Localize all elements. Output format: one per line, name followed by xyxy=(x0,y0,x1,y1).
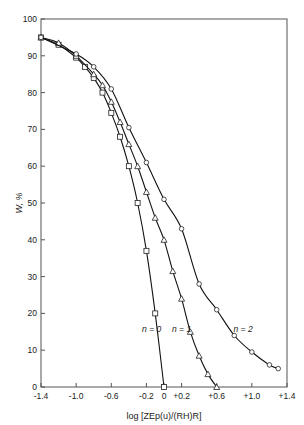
series-group: n = 0n = 1n = 2 xyxy=(38,34,281,389)
y-tick-label: 30 xyxy=(28,272,38,282)
triangle-marker xyxy=(205,371,211,377)
triangle-marker xyxy=(170,268,176,274)
series-label: n = 1 xyxy=(172,324,191,334)
series-line xyxy=(41,37,278,368)
series-label: n = 0 xyxy=(142,324,161,334)
circle-marker xyxy=(91,65,96,70)
y-tick-label: 100 xyxy=(23,14,37,24)
triangle-marker xyxy=(126,141,132,147)
square-marker xyxy=(144,248,149,253)
circle-marker xyxy=(127,125,132,130)
x-tick-label: -1.4 xyxy=(34,391,49,401)
y-tick-label: 60 xyxy=(28,161,38,171)
y-tick-label: 10 xyxy=(28,345,38,355)
square-marker xyxy=(100,90,105,95)
x-tick-label: +0.2 xyxy=(173,391,190,401)
circle-marker xyxy=(162,197,167,202)
circle-marker xyxy=(197,282,202,287)
x-axis-label: log [ZEp(u)/(RH)R] xyxy=(126,411,201,421)
y-tick-label: 20 xyxy=(28,308,38,318)
triangle-marker xyxy=(196,353,202,359)
triangle-marker xyxy=(161,237,167,243)
circle-marker xyxy=(276,366,281,371)
circle-marker xyxy=(267,363,272,368)
x-tick-label: +1.0 xyxy=(243,391,260,401)
square-marker xyxy=(126,164,131,169)
y-tick-label: 40 xyxy=(28,235,38,245)
circle-marker xyxy=(179,226,184,231)
circle-marker xyxy=(39,35,44,40)
x-tick-label: -0.2 xyxy=(139,391,154,401)
triangle-marker xyxy=(117,119,123,125)
x-tick-label: +0.6 xyxy=(208,391,225,401)
square-marker xyxy=(153,311,158,316)
triangle-marker xyxy=(143,189,149,195)
triangle-marker xyxy=(179,296,185,302)
series-label: n = 2 xyxy=(233,324,252,334)
series-1: n = 1 xyxy=(38,34,220,389)
triangle-marker xyxy=(152,215,158,221)
circle-marker xyxy=(232,333,237,338)
circle-marker xyxy=(250,350,255,355)
circle-marker xyxy=(109,87,114,92)
square-marker xyxy=(162,385,167,390)
x-tick-label: -0.6 xyxy=(104,391,119,401)
square-marker xyxy=(118,134,123,139)
circle-marker xyxy=(144,160,149,165)
y-tick-label: 50 xyxy=(28,198,38,208)
x-tick-label: -1.0 xyxy=(69,391,84,401)
y-tick-label: 90 xyxy=(28,51,38,61)
circle-marker xyxy=(74,52,79,57)
square-marker xyxy=(109,110,114,115)
triangle-marker xyxy=(108,99,114,105)
triangle-marker xyxy=(135,163,141,169)
y-tick-label: 70 xyxy=(28,124,38,134)
square-marker xyxy=(135,201,140,206)
y-axis-label: W, % xyxy=(14,192,24,213)
series-2: n = 2 xyxy=(39,35,281,371)
y-axis: 0102030405060708090100 xyxy=(23,14,45,392)
chart: 0102030405060708090100 -1.4-1.0-0.6-0.20… xyxy=(0,0,304,425)
x-tick-label: +1.4 xyxy=(279,391,296,401)
x-tick-label: 0 xyxy=(162,391,167,401)
circle-marker xyxy=(214,307,219,312)
y-tick-label: 80 xyxy=(28,88,38,98)
